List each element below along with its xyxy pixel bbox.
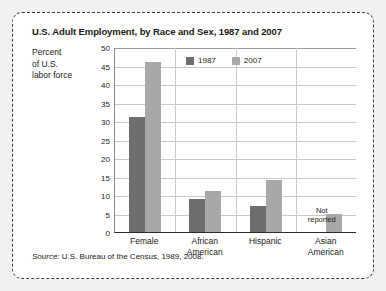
y-axis-label-line-1: Percent [32,47,88,59]
not-reported-annotation: Notreported [298,206,346,224]
plot-area: Notreported [114,48,356,233]
y-tick-label: 20 [90,155,110,164]
source-text: U.S. Bureau of the Census, 1989, 2008. [62,252,204,261]
chart-legend: 1987 2007 [186,56,262,65]
legend-swatch-icon-1987 [186,57,194,65]
legend-swatch-icon-2007 [232,57,240,65]
bar-group [115,48,175,232]
y-axis-tick-labels: 05101520253035404550 [90,48,110,233]
y-tick-label: 45 [90,62,110,71]
annotation-line: Not [298,206,346,215]
y-tick-label: 5 [90,210,110,219]
figure-root: U.S. Adult Employment, by Race and Sex, … [0,0,386,291]
legend-item-1987: 1987 [186,56,216,65]
dashed-border-frame: U.S. Adult Employment, by Race and Sex, … [12,12,374,279]
y-axis-label: Percent of U.S. labor force [32,47,88,82]
y-axis-label-line-3: labor force [32,70,88,82]
y-tick-label: 30 [90,118,110,127]
y-tick-label: 15 [90,173,110,182]
chart-title: U.S. Adult Employment, by Race and Sex, … [32,26,282,37]
y-tick-label: 35 [90,99,110,108]
y-tick-label: 10 [90,192,110,201]
annotation-line: reported [298,215,346,224]
y-tick-label: 0 [90,229,110,238]
legend-label-1987: 1987 [198,56,216,65]
x-category-label: AsianAmerican [296,236,357,257]
y-axis-label-line-2: of U.S. [32,59,88,71]
bar-group [175,48,235,232]
bar-group [236,48,296,232]
bar-group: Notreported [296,48,356,232]
y-tick-label: 50 [90,44,110,53]
legend-label-2007: 2007 [244,56,262,65]
y-tick-label: 25 [90,136,110,145]
legend-item-2007: 2007 [232,56,262,65]
bar [205,191,221,232]
bar [250,206,266,232]
y-tick-label: 40 [90,81,110,90]
bar-groups: Notreported [115,48,356,232]
x-category-label-line: African [175,236,236,247]
bar [145,62,161,232]
x-category-label-line: American [296,247,357,258]
plot-wrapper: 05101520253035404550 Notreported [90,48,356,233]
x-category-label-line: Female [114,236,175,247]
bar [129,117,145,232]
x-category-label-line: Asian [296,236,357,247]
source-note: Source: U.S. Bureau of the Census, 1989,… [32,252,204,261]
bar-missing [310,231,326,232]
x-category-label-line: Hispanic [235,236,296,247]
source-label: Source: [32,252,60,261]
x-category-label: Hispanic [235,236,296,257]
chart-panel: U.S. Adult Employment, by Race and Sex, … [18,18,368,273]
bar [266,180,282,232]
bar [189,199,205,232]
